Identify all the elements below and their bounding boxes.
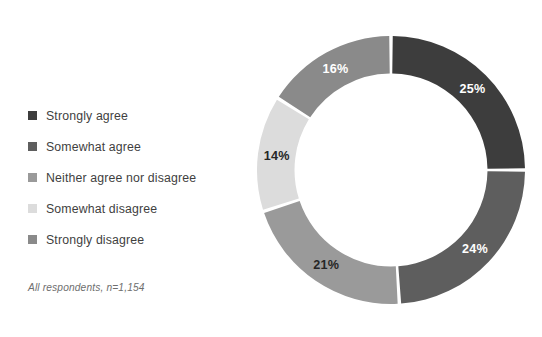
legend-swatch-icon	[28, 204, 37, 213]
legend-item[interactable]: Strongly agree	[28, 100, 243, 131]
donut-chart-figure: Strongly agreeSomewhat agreeNeither agre…	[0, 0, 542, 337]
donut-slice[interactable]	[264, 201, 398, 304]
legend-swatch-icon	[28, 142, 37, 151]
slice-value-label: 16%	[323, 62, 349, 76]
donut-slice[interactable]	[392, 36, 525, 169]
legend-swatch-icon	[28, 235, 37, 244]
chart-legend: Strongly agreeSomewhat agreeNeither agre…	[28, 100, 243, 255]
slice-value-label: 25%	[460, 82, 486, 96]
slice-value-label: 21%	[313, 258, 339, 272]
legend-item[interactable]: Somewhat disagree	[28, 193, 243, 224]
slice-value-label: 24%	[462, 242, 488, 256]
legend-item[interactable]: Neither agree nor disagree	[28, 162, 243, 193]
donut-slice[interactable]	[398, 171, 525, 303]
donut-chart: 25%24%21%14%16%	[255, 18, 542, 328]
legend-item-label: Somewhat agree	[46, 140, 141, 154]
legend-item-label: Strongly agree	[46, 109, 128, 123]
donut-svg: 25%24%21%14%16%	[255, 18, 542, 328]
legend-item-label: Neither agree nor disagree	[46, 171, 196, 185]
legend-item[interactable]: Somewhat agree	[28, 131, 243, 162]
cropped-title-remnant	[120, 0, 420, 6]
slice-value-label: 14%	[264, 149, 290, 163]
chart-footnote: All respondents, n=1,154	[28, 282, 145, 293]
donut-slice[interactable]	[279, 36, 390, 117]
legend-item-label: Somewhat disagree	[46, 202, 157, 216]
legend-swatch-icon	[28, 111, 37, 120]
legend-item[interactable]: Strongly disagree	[28, 224, 243, 255]
legend-swatch-icon	[28, 173, 37, 182]
legend-item-label: Strongly disagree	[46, 233, 144, 247]
